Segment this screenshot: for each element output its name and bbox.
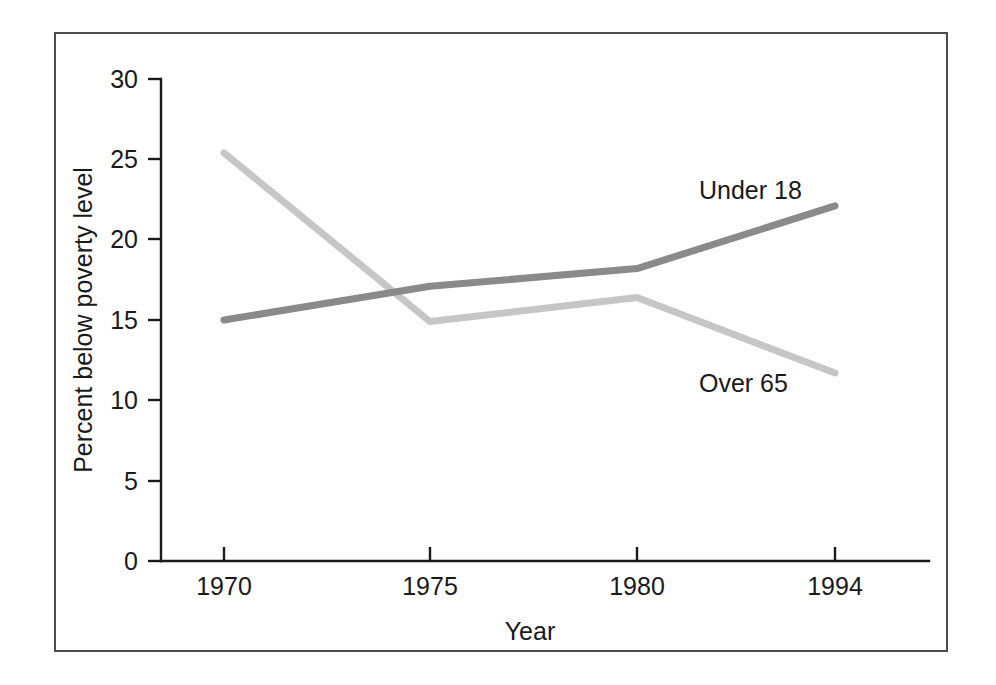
series-label-over-65: Over 65 [699, 369, 788, 397]
y-tick-label-5: 5 [124, 467, 138, 495]
series-line-under-18 [224, 206, 835, 320]
y-tick-label-15: 15 [110, 306, 138, 334]
x-tick-label-1970: 1970 [196, 572, 252, 600]
y-tick-label-10: 10 [110, 386, 138, 414]
series-label-under-18: Under 18 [699, 176, 802, 204]
line-chart-plot: 30 25 20 15 10 5 0 1970 1975 1980 1994 [56, 34, 946, 650]
figure-root: 30 25 20 15 10 5 0 1970 1975 1980 1994 [0, 0, 996, 685]
chart-frame-border: 30 25 20 15 10 5 0 1970 1975 1980 1994 [54, 32, 948, 652]
y-tick-label-0: 0 [124, 547, 138, 575]
y-axis-title: Percent below poverty level [69, 167, 97, 473]
x-tick-marks [224, 547, 835, 561]
x-tick-label-1994: 1994 [807, 572, 863, 600]
y-tick-label-25: 25 [110, 145, 138, 173]
x-tick-labels: 1970 1975 1980 1994 [196, 572, 863, 600]
y-tick-label-20: 20 [110, 225, 138, 253]
x-axis-title: Year [505, 617, 556, 645]
x-tick-label-1980: 1980 [609, 572, 665, 600]
y-tick-labels: 30 25 20 15 10 5 0 [110, 65, 138, 575]
x-tick-label-1975: 1975 [402, 572, 458, 600]
y-tick-marks [148, 79, 161, 561]
y-tick-label-30: 30 [110, 65, 138, 93]
